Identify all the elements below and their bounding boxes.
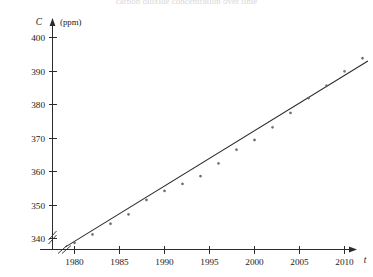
chart-canvas: 400 390 380 370 360 350 340 C (ppm) 1980…: [0, 0, 373, 277]
data-point: [145, 199, 147, 201]
x-tick-label: 2005: [290, 257, 309, 267]
x-tick-label: 1990: [155, 257, 174, 267]
y-axis-variable-label: C: [36, 17, 43, 27]
x-tick-label: 1980: [65, 257, 84, 267]
data-point: [217, 162, 219, 164]
data-point: [73, 242, 75, 244]
x-tick-label: 1985: [110, 257, 129, 267]
data-point: [109, 223, 111, 225]
y-tick-label: 340: [31, 234, 45, 244]
y-axis-tick-labels: 400 390 380 370 360 350 340: [31, 33, 45, 244]
data-point: [235, 149, 237, 151]
x-tick-label: 2010: [335, 257, 354, 267]
co2-concentration-scatter-chart: 400 390 380 370 360 350 340 C (ppm) 1980…: [0, 0, 373, 277]
data-point: [343, 70, 345, 72]
y-tick-label: 380: [31, 100, 45, 110]
data-point: [199, 175, 201, 177]
data-point: [361, 57, 363, 59]
data-point: [307, 97, 309, 99]
data-point: [163, 190, 165, 192]
regression-line: [66, 61, 368, 247]
data-point: [253, 139, 255, 141]
data-point: [271, 126, 273, 128]
y-tick-label: 390: [31, 67, 45, 77]
data-point: [181, 183, 183, 185]
x-axis-tick-labels: 1980 1985 1990 1995 2000 2005 2010: [65, 257, 354, 267]
data-point: [325, 85, 327, 87]
x-tick-label: 1995: [200, 257, 219, 267]
data-point: [91, 233, 93, 235]
y-tick-label: 370: [31, 134, 45, 144]
data-point: [289, 112, 291, 114]
x-tick-label: 2000: [245, 257, 264, 267]
y-tick-label: 360: [31, 167, 45, 177]
y-axis-unit-label: (ppm): [60, 17, 82, 27]
x-axis-variable-label: t: [364, 255, 367, 265]
y-tick-label: 350: [31, 201, 45, 211]
y-tick-label: 400: [31, 33, 45, 43]
x-axis-arrow-icon: [349, 247, 357, 253]
y-axis-arrow-icon: [50, 18, 56, 26]
data-point-group: [73, 57, 363, 244]
data-point: [127, 213, 129, 215]
